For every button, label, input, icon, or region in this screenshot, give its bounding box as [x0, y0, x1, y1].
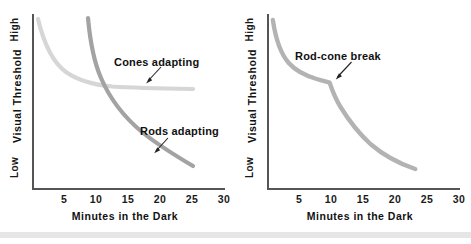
left-x-tick-labels: 5 10 15 20 25 30 [32, 193, 232, 207]
cones-adapting-curve [38, 19, 193, 89]
annotation-rods-adapting: Rods adapting [140, 125, 219, 137]
left-xtick-10: 10 [84, 193, 108, 205]
left-xtick-25: 25 [180, 193, 204, 205]
left-xtick-5: 5 [52, 193, 76, 205]
annotation-rod-cone-break: Rod-cone break [295, 50, 381, 62]
rod-cone-break-arrow [336, 62, 352, 79]
right-x-tick-labels: 5 10 15 20 25 30 [267, 193, 467, 207]
right-xtick-10: 10 [319, 193, 343, 205]
right-plot-curves [235, 0, 470, 244]
rods-adapting-curve [88, 18, 193, 166]
right-xtick-30: 30 [447, 193, 471, 205]
annotation-cones-adapting: Cones adapting [114, 56, 199, 68]
right-xtick-15: 15 [351, 193, 375, 205]
left-y-axis-title: Visual Threshold [11, 31, 23, 161]
right-xtick-25: 25 [415, 193, 439, 205]
left-y-axis-line [32, 14, 34, 190]
chart-panel-right: High Low Visual Threshold 5 10 15 20 25 … [235, 0, 471, 244]
dark-adaptation-curve [273, 20, 415, 169]
left-xtick-30: 30 [212, 193, 236, 205]
right-xtick-20: 20 [383, 193, 407, 205]
chart-panel-left: High Low Visual Threshold 5 10 15 20 25 … [0, 0, 235, 244]
right-x-axis-line [267, 188, 460, 190]
right-x-axis-title: Minutes in the Dark [255, 210, 465, 222]
left-x-axis-line [32, 188, 225, 190]
left-xtick-15: 15 [116, 193, 140, 205]
bottom-divider-band [0, 232, 471, 238]
right-xtick-5: 5 [287, 193, 311, 205]
left-y-label-low: Low [0, 162, 30, 173]
left-plot-curves [0, 0, 235, 244]
right-y-axis-title: Visual Threshold [246, 31, 258, 161]
left-x-axis-title: Minutes in the Dark [20, 210, 230, 222]
cones-annotation-arrow [146, 67, 161, 83]
right-y-label-low: Low [235, 162, 265, 173]
left-xtick-20: 20 [148, 193, 172, 205]
dark-adaptation-figure: High Low Visual Threshold 5 10 15 20 25 … [0, 0, 471, 244]
right-y-axis-line [267, 14, 269, 190]
